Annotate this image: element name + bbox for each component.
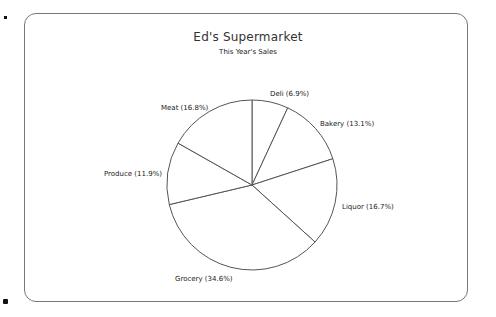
slice-label-grocery: Grocery (34.6%) — [175, 275, 233, 283]
slice-label-meat: Meat (16.8%) — [161, 104, 208, 112]
slice-label-produce: Produce (11.9%) — [104, 170, 162, 178]
slice-label-bakery: Bakery (13.1%) — [320, 120, 374, 128]
slice-label-liquor: Liquor (16.7%) — [342, 203, 394, 211]
pie-chart — [0, 0, 496, 317]
slice-label-deli: Deli (6.9%) — [270, 90, 309, 98]
